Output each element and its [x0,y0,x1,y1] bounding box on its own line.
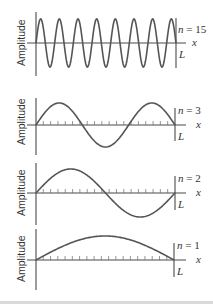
y-axis-label: Amplitude [15,19,27,66]
length-label: L [177,130,184,142]
mode-label: n = 15 [178,23,207,35]
x-axis-label: x [191,36,197,48]
mode-label: n = 1 [177,239,200,251]
length-label: L [177,198,184,210]
length-label: L [176,265,183,277]
length-label: L [178,48,185,60]
panel-n3: Amplitude n = 3 x L [15,98,201,155]
standing-waves-figure: Amplitude n = 15 x L Amplitude n = 3 x L… [0,0,213,304]
x-axis-label: x [195,186,201,198]
panel-n2: Amplitude n = 2 x L [15,163,201,225]
panel-n15: Amplitude n = 15 x L [15,12,207,76]
wave-curve [36,236,174,260]
y-axis-label: Amplitude [15,235,27,282]
mode-label: n = 2 [178,172,201,184]
tick-marks [43,256,166,260]
y-axis-label: Amplitude [15,98,27,145]
x-axis-label: x [195,118,201,130]
x-axis-label: x [195,253,201,265]
mode-label: n = 3 [178,104,201,116]
y-axis-label: Amplitude [15,169,27,216]
tick-marks [43,121,167,125]
panel-n1: Amplitude n = 1 x L [15,229,201,290]
